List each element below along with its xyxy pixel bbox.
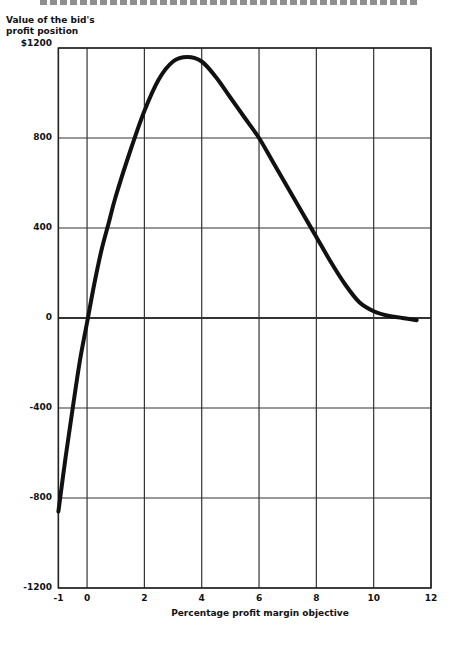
y-tick-label: 0 — [6, 312, 52, 322]
x-tick-label: 8 — [304, 593, 328, 603]
x-tick-label: -1 — [46, 593, 70, 603]
y-tick-label: -1200 — [6, 582, 52, 592]
y-tick-label: 800 — [6, 132, 52, 142]
x-tick-label: 10 — [362, 593, 386, 603]
x-tick-label: 6 — [247, 593, 271, 603]
y-tick-label: 400 — [6, 222, 52, 232]
x-tick-label: 0 — [75, 593, 99, 603]
profit-curve — [58, 57, 416, 512]
y-tick-label: -800 — [6, 492, 52, 502]
chart-plot — [0, 0, 461, 646]
x-tick-label: 12 — [419, 593, 443, 603]
x-tick-label: 2 — [132, 593, 156, 603]
y-tick-label: -400 — [6, 402, 52, 412]
x-axis-title: Percentage profit margin objective — [170, 608, 350, 619]
y-tick-label: $1200 — [6, 38, 52, 48]
x-tick-label: 4 — [190, 593, 214, 603]
